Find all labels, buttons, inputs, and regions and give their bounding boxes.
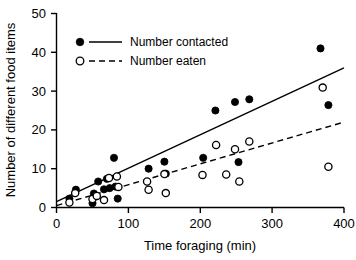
data-point xyxy=(145,186,152,193)
x-tick-label-300: 300 xyxy=(261,216,283,231)
data-point xyxy=(235,159,242,166)
data-point xyxy=(161,171,168,178)
y-tick-label-0: 0 xyxy=(39,200,46,215)
open-circle-icon xyxy=(76,57,84,65)
data-point xyxy=(115,183,122,190)
legend-entry-number-eaten: Number eaten xyxy=(76,54,206,68)
y-tick-label-20: 20 xyxy=(32,122,46,137)
data-point xyxy=(95,178,102,185)
data-point xyxy=(325,163,332,170)
y-tick-label-30: 30 xyxy=(32,84,46,99)
x-tick-label-400: 400 xyxy=(333,216,355,231)
data-point xyxy=(100,197,107,204)
data-point xyxy=(213,141,220,148)
y-tick-label-40: 40 xyxy=(32,45,46,60)
data-point xyxy=(236,178,243,185)
data-point xyxy=(317,45,324,52)
x-tick-label-0: 0 xyxy=(53,216,60,231)
filled-circle-icon xyxy=(76,38,84,46)
data-point xyxy=(246,138,253,145)
x-tick-label-100: 100 xyxy=(118,216,140,231)
data-point xyxy=(199,171,206,178)
data-point xyxy=(223,171,230,178)
data-point xyxy=(162,190,169,197)
data-point xyxy=(200,154,207,161)
legend: Number contacted Number eaten xyxy=(76,35,228,68)
y-axis-tick-labels: 0 10 20 30 40 50 xyxy=(32,6,46,215)
data-point xyxy=(319,84,326,91)
data-point xyxy=(114,195,121,202)
y-tick-label-10: 10 xyxy=(32,161,46,176)
figure-container: 0 10 20 30 40 50 0 100 200 300 400 Time … xyxy=(0,0,356,260)
x-axis-ticks xyxy=(57,208,345,214)
data-point xyxy=(231,98,238,105)
series-number-contacted-points xyxy=(66,45,332,207)
data-point xyxy=(113,173,120,180)
data-point xyxy=(231,146,238,153)
x-axis-title: Time foraging (min) xyxy=(144,238,256,253)
data-point xyxy=(93,192,100,199)
scatter-plot: 0 10 20 30 40 50 0 100 200 300 400 Time … xyxy=(0,0,356,260)
data-point xyxy=(144,178,151,185)
data-point xyxy=(325,102,332,109)
legend-label-number-eaten: Number eaten xyxy=(130,54,206,68)
data-point xyxy=(110,154,117,161)
data-point xyxy=(161,158,168,165)
y-axis-ticks xyxy=(51,14,57,208)
data-point xyxy=(72,190,79,197)
y-tick-label-50: 50 xyxy=(32,6,46,21)
x-axis-tick-labels: 0 100 200 300 400 xyxy=(53,216,355,231)
x-tick-label-200: 200 xyxy=(189,216,211,231)
data-point xyxy=(246,96,253,103)
data-point xyxy=(66,199,73,206)
data-point xyxy=(105,174,112,181)
data-point xyxy=(212,107,219,114)
data-point xyxy=(145,165,152,172)
legend-entry-number-contacted: Number contacted xyxy=(76,35,228,49)
legend-label-number-contacted: Number contacted xyxy=(130,35,228,49)
y-axis-title: Number of different food items xyxy=(3,22,18,197)
